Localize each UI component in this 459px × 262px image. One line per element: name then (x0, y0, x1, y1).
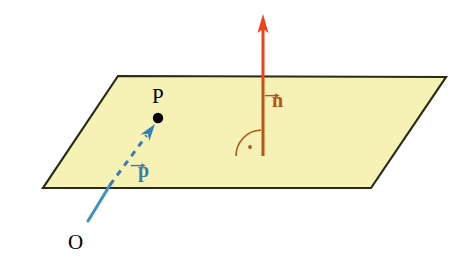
point-p-label: P (152, 86, 164, 107)
normal-vector-label: n (272, 90, 283, 110)
vector-arrow-accent-icon (130, 160, 146, 168)
position-vector-label: p (138, 160, 149, 180)
perpendicular-dot-icon (248, 145, 252, 149)
diagram-canvas (0, 0, 459, 262)
vector-accent-group: n (272, 90, 283, 110)
plane-surface (43, 76, 446, 188)
vector-plane-diagram: P O p n (0, 0, 459, 262)
origin-label: O (68, 232, 83, 253)
position-vector-solid-segment (88, 185, 110, 221)
vector-arrow-accent-icon (264, 90, 280, 98)
point-p-dot (153, 113, 163, 123)
vector-accent-group: p (138, 160, 149, 180)
